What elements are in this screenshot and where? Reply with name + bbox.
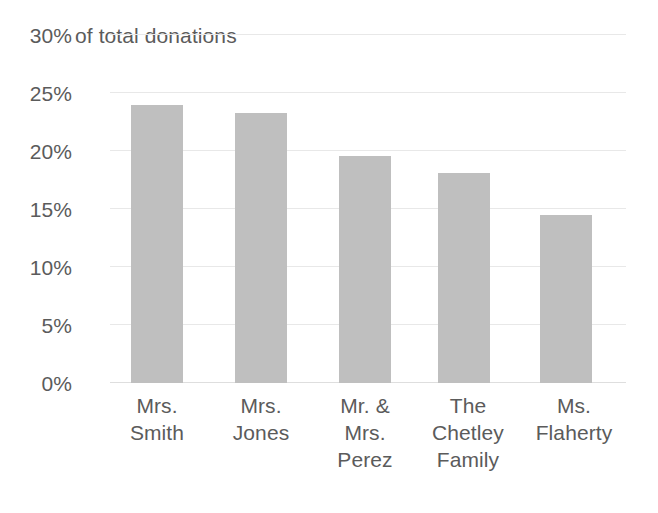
x-label-mr-mrs-perez: Mr. &Mrs.Perez xyxy=(318,392,412,473)
y-tick-label-5: 5% xyxy=(0,314,72,338)
y-tick-label-10: 10% xyxy=(0,256,72,280)
bars-layer xyxy=(110,34,626,383)
bar-the-chetley-family xyxy=(438,173,490,383)
x-label-ms-flaherty: Ms.Flaherty xyxy=(522,392,626,446)
bar-mrs-smith xyxy=(131,105,183,383)
bar-mrs-jones xyxy=(235,113,287,383)
plot-area xyxy=(110,34,626,383)
y-tick-label-30: 30% xyxy=(0,24,72,48)
bar-mr-mrs-perez xyxy=(339,156,391,383)
x-label-the-chetley-family: TheChetleyFamily xyxy=(416,392,520,473)
bar-chart: of total donations 30% 25% 20% 15% 10% 5… xyxy=(0,0,658,513)
bar-ms-flaherty xyxy=(540,215,592,383)
y-tick-label-15: 15% xyxy=(0,198,72,222)
x-label-mrs-jones: Mrs.Jones xyxy=(214,392,308,446)
y-tick-label-25: 25% xyxy=(0,82,72,106)
y-tick-label-20: 20% xyxy=(0,140,72,164)
y-tick-label-0: 0% xyxy=(0,372,72,396)
x-label-mrs-smith: Mrs.Smith xyxy=(110,392,204,446)
x-axis-labels: Mrs.Smith Mrs.Jones Mr. &Mrs.Perez TheCh… xyxy=(110,392,626,502)
